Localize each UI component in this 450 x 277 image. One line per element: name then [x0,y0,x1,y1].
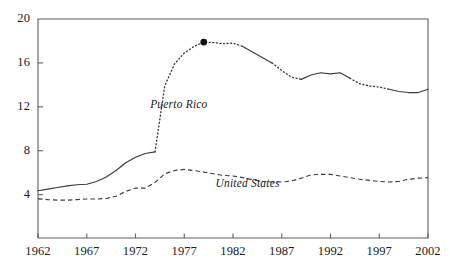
y-axis-tick-label-16: 16 [0,55,30,70]
y-axis-tick-label-20: 20 [0,11,30,26]
x-axis-tick-label-1992: 1992 [311,244,351,259]
x-axis-tick-label-1987: 1987 [262,244,302,259]
x-axis-tick-label-1962: 1962 [18,244,58,259]
series-line-puerto-rico [389,89,428,92]
y-axis-tick-label-12: 12 [0,99,30,114]
x-axis-tick-label-1977: 1977 [164,244,204,259]
x-axis-tick-label-1967: 1967 [67,244,107,259]
series-line-puerto-rico [38,152,155,191]
series-annotation-united-states: United States [215,177,279,189]
x-axis-tick-label-2002: 2002 [408,244,448,259]
series-line-puerto-rico [350,78,389,89]
plot-frame [38,19,428,238]
y-axis-tick-label-4: 4 [0,187,30,202]
data-point-marker [200,39,207,46]
x-axis-tick-label-1997: 1997 [359,244,399,259]
series-annotation-puerto-rico: Puerto Rico [150,98,207,110]
series-line-puerto-rico [272,63,301,79]
chart-container: 4812162019621967197219771982198719921997… [0,0,450,277]
series-line-puerto-rico [301,73,350,80]
x-axis-tick-label-1982: 1982 [213,244,253,259]
series-line-puerto-rico [243,46,272,62]
y-axis-tick-label-8: 8 [0,143,30,158]
line-chart-plot [0,0,450,277]
x-axis-tick-label-1972: 1972 [116,244,156,259]
